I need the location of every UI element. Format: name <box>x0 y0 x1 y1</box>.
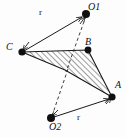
radius-arrow-top <box>24 17 82 51</box>
label-a: A <box>115 80 121 90</box>
figure-canvas <box>0 0 126 137</box>
label-o2: O2 <box>49 122 61 132</box>
point-a <box>108 93 115 100</box>
label-o1: O1 <box>88 2 100 12</box>
geometry-figure: O1 C B A O2 r r <box>0 0 126 137</box>
label-c: C <box>6 42 13 52</box>
point-b <box>85 47 92 54</box>
radius-arrow-bottom <box>54 99 109 117</box>
label-radius-top: r <box>39 8 42 17</box>
label-b: B <box>85 37 91 47</box>
hatched-region <box>22 50 112 97</box>
point-c <box>18 48 25 55</box>
dashed-line-o2 <box>52 66 69 116</box>
label-radius-bottom: r <box>77 113 80 122</box>
